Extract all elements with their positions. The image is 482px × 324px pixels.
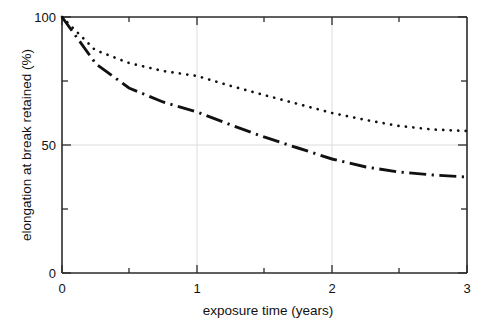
y-tick-label-100: 100 — [34, 10, 56, 25]
x-tick-label-3: 3 — [463, 281, 470, 296]
x-tick-label-2: 2 — [328, 281, 335, 296]
x-tick-label-1: 1 — [193, 281, 200, 296]
figure-background — [0, 0, 482, 324]
y-tick-label-0: 0 — [49, 266, 56, 281]
x-tick-label-0: 0 — [58, 281, 65, 296]
chart-plot-area: 100 50 0 0 1 2 3 elongation at break ret… — [0, 0, 482, 324]
y-axis-title: elongation at break retained (%) — [19, 49, 34, 241]
x-axis-title: exposure time (years) — [203, 303, 334, 318]
chart-figure: 100 50 0 0 1 2 3 elongation at break ret… — [0, 0, 482, 324]
y-tick-label-50: 50 — [42, 138, 56, 153]
